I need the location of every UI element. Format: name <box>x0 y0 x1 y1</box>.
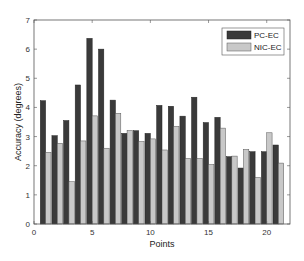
y-tick-label: 7 <box>26 16 31 25</box>
bar-pc-ec-point-10 <box>145 133 150 224</box>
x-tick-label: 20 <box>262 228 271 237</box>
legend: PC-EC NIC-EC <box>222 28 284 55</box>
bar-nic-ec-point-5 <box>92 116 97 224</box>
y-tick-label: 1 <box>26 191 31 200</box>
bar-pc-ec-point-15 <box>203 123 208 224</box>
bar-nic-ec-point-4 <box>81 141 86 224</box>
bar-pc-ec-point-21 <box>273 145 278 224</box>
bar-pc-ec-point-16 <box>215 117 220 224</box>
bar-pc-ec-point-18 <box>238 168 243 224</box>
bar-nic-ec-point-10 <box>150 139 155 224</box>
bar-pc-ec-point-11 <box>157 105 162 224</box>
bar-nic-ec-point-21 <box>278 163 283 224</box>
legend-label-nic-ec: NIC-EC <box>254 43 282 52</box>
y-tick-label: 4 <box>26 103 31 112</box>
bar-pc-ec-point-8 <box>122 133 127 224</box>
bar-pc-ec-point-12 <box>168 106 173 224</box>
bar-pc-ec-point-3 <box>64 121 69 224</box>
bar-pc-ec-point-14 <box>192 97 197 224</box>
bar-nic-ec-point-15 <box>209 165 214 224</box>
bar-pc-ec-point-20 <box>261 152 266 224</box>
y-axis-label: Accuracy (degrees) <box>13 83 23 161</box>
bar-pc-ec-point-7 <box>110 100 115 224</box>
x-tick-label: 0 <box>32 228 37 237</box>
bar-pc-ec-point-17 <box>226 157 231 224</box>
bar-nic-ec-point-2 <box>57 143 62 224</box>
bar-nic-ec-point-3 <box>69 182 74 224</box>
bar-nic-ec-point-8 <box>127 130 132 224</box>
x-tick-label: 15 <box>204 228 213 237</box>
bar-nic-ec-point-19 <box>255 177 260 224</box>
bar-nic-ec-point-17 <box>232 156 237 224</box>
bar-nic-ec-point-9 <box>139 142 144 224</box>
bar-pc-ec-point-2 <box>52 136 57 224</box>
bar-nic-ec-point-18 <box>243 149 248 224</box>
bar-pc-ec-point-9 <box>133 131 138 224</box>
bar-pc-ec-point-4 <box>75 85 80 224</box>
y-tick-label: 5 <box>26 74 31 83</box>
y-tick-label: 3 <box>26 133 31 142</box>
bar-nic-ec-point-13 <box>185 158 190 224</box>
bar-nic-ec-point-12 <box>174 126 179 224</box>
x-tick-label: 5 <box>90 228 95 237</box>
x-axis-label: Points <box>149 239 175 249</box>
bar-nic-ec-point-1 <box>46 152 51 224</box>
bar-pc-ec-point-5 <box>87 38 92 224</box>
bar-pc-ec-point-1 <box>40 101 45 224</box>
bar-nic-ec-point-16 <box>220 128 225 224</box>
bar-nic-ec-point-7 <box>115 113 120 224</box>
x-tick-label: 10 <box>146 228 155 237</box>
bar-nic-ec-point-14 <box>197 158 202 224</box>
bar-nic-ec-point-6 <box>104 148 109 224</box>
legend-swatch-pc-ec <box>227 31 251 39</box>
legend-swatch-nic-ec <box>227 43 251 51</box>
bar-chart: 01234567 05101520 Points Accuracy (degre… <box>0 0 304 261</box>
y-tick-label: 6 <box>26 45 31 54</box>
legend-label-pc-ec: PC-EC <box>254 31 279 40</box>
bar-nic-ec-point-20 <box>267 133 272 224</box>
y-tick-label: 0 <box>26 220 31 229</box>
bar-pc-ec-point-13 <box>180 116 185 224</box>
y-tick-label: 2 <box>26 162 31 171</box>
bar-nic-ec-point-11 <box>162 150 167 224</box>
bar-pc-ec-point-6 <box>98 49 103 224</box>
bar-pc-ec-point-19 <box>250 152 255 224</box>
